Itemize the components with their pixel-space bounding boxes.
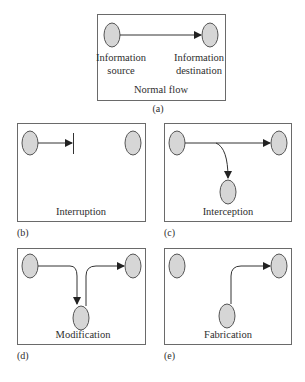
panel-e-tag: (e): [164, 350, 175, 362]
panel-interruption: Interruption (b): [17, 124, 146, 240]
flow-from-modifier-arrow: [86, 266, 124, 306]
fabricator-node: [219, 304, 235, 328]
source-node: [169, 254, 185, 278]
panel-a-tag: (a): [152, 103, 163, 115]
source-node: [22, 131, 38, 155]
panel-b-title: Interruption: [56, 206, 107, 217]
source-node: [169, 131, 185, 155]
flow-to-modifier-arrow: [38, 266, 77, 304]
panel-d-title: Modification: [56, 329, 112, 340]
destination-node: [202, 23, 218, 47]
source-node: [104, 23, 120, 47]
panel-a-title: Normal flow: [134, 84, 188, 95]
destination-node: [125, 254, 141, 278]
panel-d-tag: (d): [17, 350, 29, 362]
modifier-node: [73, 306, 89, 330]
destination-label-line2: destination: [176, 65, 223, 76]
security-threats-diagram: Information source Information destinati…: [0, 0, 305, 382]
source-label-line2: source: [107, 65, 135, 76]
panel-modification: Modification (d): [17, 249, 146, 363]
source-label-line1: Information: [96, 52, 147, 63]
destination-label-line1: Information: [174, 52, 225, 63]
destination-node: [271, 254, 287, 278]
source-node: [22, 254, 38, 278]
panel-interception: Interception (c): [164, 124, 292, 240]
fabricated-flow-arrow: [231, 266, 270, 304]
destination-node: [125, 131, 141, 155]
panel-normal-flow: Information source Information destinati…: [96, 15, 226, 116]
interceptor-node: [220, 180, 236, 204]
panel-c-tag: (c): [164, 227, 175, 239]
panel-b-tag: (b): [17, 227, 29, 239]
destination-node: [271, 131, 287, 155]
panel-c-title: Interception: [203, 206, 254, 217]
intercept-branch-arrow: [216, 143, 228, 178]
panel-fabrication: Fabrication (e): [164, 249, 292, 363]
panel-e-title: Fabrication: [204, 329, 253, 340]
